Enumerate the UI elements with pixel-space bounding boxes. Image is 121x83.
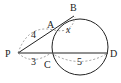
segment-cd-label: 5	[77, 56, 82, 67]
label-p: P	[5, 48, 11, 59]
segment-pc-label: 3	[31, 56, 36, 67]
segment-ab-label: x	[65, 24, 71, 35]
label-a: A	[47, 19, 55, 30]
label-c: C	[44, 59, 51, 70]
label-b: B	[70, 2, 77, 13]
secant-diagram: P A B C D 4 x 3 5	[0, 0, 121, 83]
segment-pa-label: 4	[31, 29, 36, 40]
label-d: D	[110, 48, 117, 59]
